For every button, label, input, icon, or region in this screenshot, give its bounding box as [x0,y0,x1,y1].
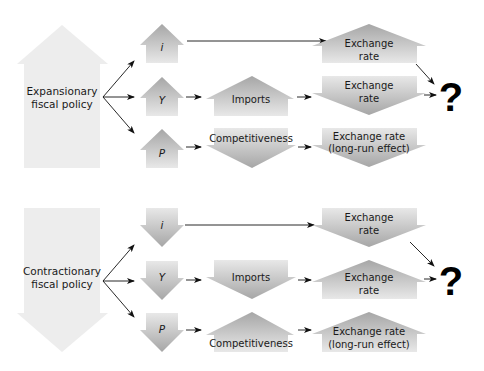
var-i-label: i [161,41,164,53]
exchange-rate-2-line1: Exchange [345,80,394,91]
policy-label-line1: Expansionary [26,85,97,97]
branch-arrow-p [103,281,134,317]
policy-label-line2: fiscal policy [31,278,92,290]
outcome-question-mark: ? [439,259,463,303]
exchange-rate-2-line1: Exchange [345,272,394,283]
exchange-rate-1-line1: Exchange [345,212,394,223]
fiscal-policy-exchange-rate-diagram: Expansionary fiscal policy i Y P Imports… [0,0,484,371]
branch-arrow-i [103,245,134,281]
policy-label-line1: Contractionary [23,265,101,277]
branch-arrow-i [103,61,134,97]
to-outcome-arrow-1 [410,242,434,266]
exchange-rate-3-line2: (long-run effect) [328,143,410,154]
var-i-label: i [161,219,164,231]
panel-expansionary: Expansionary fiscal policy i Y P Imports… [17,24,463,168]
outcome-question-mark: ? [439,75,463,119]
var-p-label: P [159,147,166,159]
competitiveness-label: Competitiveness [209,133,293,144]
imports-label: Imports [232,272,270,283]
exchange-rate-2-line2: rate [359,93,379,104]
exchange-rate-1-line2: rate [359,225,379,236]
panel-contractionary: Contractionary fiscal policy i Y P Impor… [17,208,463,352]
exchange-rate-2-line2: rate [359,285,379,296]
policy-label-line2: fiscal policy [31,98,92,110]
exchange-rate-3-line2: (long-run effect) [328,339,410,350]
exchange-rate-1-line2: rate [359,51,379,62]
exchange-rate-3-line1: Exchange rate [333,131,405,142]
competitiveness-label: Competitiveness [209,338,293,349]
branch-arrow-p [103,97,134,133]
imports-label: Imports [232,94,270,105]
var-p-label: P [159,323,166,335]
to-outcome-arrow-1 [416,64,434,84]
exchange-rate-3-line1: Exchange rate [333,326,405,337]
exchange-rate-1-line1: Exchange [345,38,394,49]
